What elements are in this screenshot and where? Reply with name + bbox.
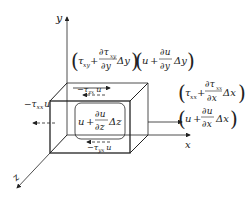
y-axis: y <box>55 12 67 83</box>
tau-xy-dy-term: ( τ xy + ∂τ xy ∂y Δy ) <box>71 47 139 73</box>
x-axis: x <box>148 135 191 150</box>
u-dz-term: u + ∂u ∂z Δz <box>75 103 125 139</box>
tau-xx-dx-term: ( τ xx + ∂τ xx ∂x Δx ) <box>178 79 246 105</box>
svg-text:Δz: Δz <box>108 116 122 127</box>
svg-text:+: + <box>90 55 98 66</box>
svg-text:Δy: Δy <box>116 55 130 66</box>
svg-text:): ) <box>238 81 246 105</box>
z-axis-label: z <box>9 171 22 184</box>
svg-text:∂x: ∂x <box>207 93 217 103</box>
z-axis: z <box>9 153 50 188</box>
svg-text:): ) <box>187 49 195 73</box>
control-volume-diagram: y x z −τxxu −τzxu −τyxu <box>0 0 249 202</box>
svg-text:∂u: ∂u <box>160 47 171 57</box>
y-axis-label: y <box>55 12 63 25</box>
svg-text:u: u <box>142 55 148 66</box>
neg-tau-xx-u-label: −τxxu <box>24 99 50 110</box>
svg-text:+: + <box>193 113 201 124</box>
svg-text:∂τ: ∂τ <box>205 79 216 89</box>
flux-arrows <box>33 88 182 142</box>
svg-text:−τzxu: −τzxu <box>77 85 101 95</box>
svg-text:∂u: ∂u <box>95 109 106 119</box>
svg-text:∂u: ∂u <box>202 106 213 116</box>
u-dy-term: ( u + ∂u ∂y Δy ) <box>135 47 195 73</box>
svg-text:∂z: ∂z <box>95 122 105 132</box>
svg-text:Δx: Δx <box>215 113 229 124</box>
svg-text:): ) <box>230 107 238 131</box>
svg-text:∂x: ∂x <box>202 119 212 129</box>
svg-text:Δx: Δx <box>222 87 236 98</box>
svg-text:∂τ: ∂τ <box>99 47 110 57</box>
x-axis-label: x <box>185 139 191 150</box>
neg-tau-zx-u-top-label: −τzxu <box>77 85 101 95</box>
svg-text:u: u <box>185 113 191 124</box>
svg-text:+: + <box>150 55 158 66</box>
svg-text:u: u <box>78 116 84 127</box>
svg-text:Δy: Δy <box>173 55 187 66</box>
svg-text:−τxxu: −τxxu <box>24 99 50 110</box>
svg-text:∂y: ∂y <box>160 61 171 71</box>
svg-text:+: + <box>86 116 94 127</box>
svg-text:∂y: ∂y <box>101 61 112 71</box>
u-dx-term: ( u + ∂u ∂x Δx ) <box>178 106 238 131</box>
